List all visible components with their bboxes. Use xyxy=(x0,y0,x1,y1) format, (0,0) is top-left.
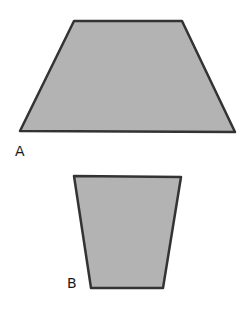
trapezoid-b xyxy=(74,176,181,288)
diagram-canvas xyxy=(0,0,252,315)
label-a: A xyxy=(15,143,25,159)
label-b: B xyxy=(67,275,77,291)
trapezoid-a xyxy=(20,21,235,132)
